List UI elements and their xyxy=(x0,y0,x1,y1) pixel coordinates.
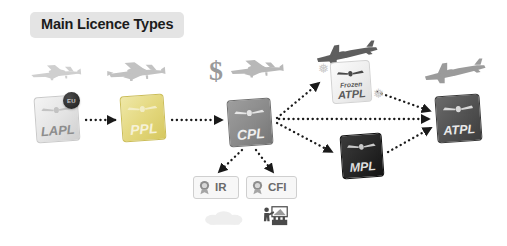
licence-card-atpl[interactable]: ATPL xyxy=(434,93,482,143)
edge-cpl-to-frozen xyxy=(277,83,319,118)
licence-card-label: Frozen ATPL xyxy=(332,80,371,103)
edge-cpl-to-cfi xyxy=(256,150,273,172)
prop-plane-icon xyxy=(106,58,168,85)
rating-chip-label: CFI xyxy=(268,182,287,194)
rating-chip-label: IR xyxy=(215,182,227,194)
licence-card-label: LAPL xyxy=(36,123,79,143)
light-prop-plane-icon xyxy=(28,60,84,85)
licence-card-frozen-atpl[interactable]: Frozen ATPL xyxy=(330,60,373,105)
snowflake-icon: ❅ xyxy=(318,62,329,75)
pilot-wings-icon xyxy=(442,104,473,114)
prop-plane-icon xyxy=(228,56,286,82)
rosette-seal-icon xyxy=(251,180,264,195)
edge-frozen-to-atpl xyxy=(377,92,430,111)
pilot-wings-icon xyxy=(127,104,158,114)
licence-card-mpl[interactable]: MPL xyxy=(340,133,385,180)
jet-airliner-icon xyxy=(420,56,488,84)
licence-card-ppl[interactable]: PPL xyxy=(119,94,166,143)
licence-card-maintext: ATPL xyxy=(337,87,366,101)
licence-card-label: PPL xyxy=(122,120,165,141)
rosette-seal-icon xyxy=(198,180,211,195)
cloud-icon xyxy=(203,209,246,226)
eu-roundel-icon: EU xyxy=(63,92,80,109)
dollar-sign-icon: $ xyxy=(209,57,223,85)
rating-chip-ir[interactable]: IR xyxy=(193,176,239,199)
edge-mpl-to-atpl xyxy=(388,128,431,152)
licence-card-label: CPL xyxy=(229,125,272,146)
classroom-instructor-icon xyxy=(262,206,288,226)
licence-card-cpl[interactable]: CPL xyxy=(226,98,273,148)
pilot-wings-icon xyxy=(337,69,365,78)
licence-card-label: MPL xyxy=(342,159,383,178)
edge-cpl-to-mpl xyxy=(277,123,332,152)
pilot-wings-icon xyxy=(234,108,265,118)
licence-progression-diagram: Main Licence Types xyxy=(0,0,507,246)
edge-cpl-to-ir xyxy=(219,150,242,172)
snowflake-icon: ❅ xyxy=(373,87,384,100)
page-title: Main Licence Types xyxy=(30,12,184,38)
licence-card-label: ATPL xyxy=(437,123,481,143)
pilot-wings-icon xyxy=(347,142,376,152)
rating-chip-cfi[interactable]: CFI xyxy=(246,176,297,199)
